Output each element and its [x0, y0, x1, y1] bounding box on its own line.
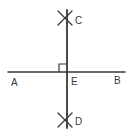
label-d: D	[75, 116, 82, 127]
geometry-figure: A B C D E	[0, 0, 136, 139]
label-a: A	[11, 77, 18, 88]
label-c: C	[75, 15, 82, 26]
label-b: B	[114, 75, 121, 86]
label-e: E	[71, 76, 78, 87]
geometry-canvas: A B C D E	[0, 0, 136, 139]
